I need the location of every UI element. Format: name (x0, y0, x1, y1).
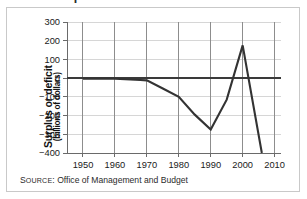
vertical-gridlines (83, 22, 275, 153)
figure-container: Federal Surplus or Deficit Surplus or de… (0, 0, 307, 199)
source-note: SOURCE: Office of Management and Budget (20, 175, 188, 185)
svg-text:300: 300 (44, 17, 60, 27)
chart-panel: Surplus or deficit (billions of dollars)… (6, 7, 300, 192)
svg-text:2010: 2010 (264, 160, 285, 170)
line-chart-svg: 3002001000−100−200−300−400 1950196019701… (7, 8, 301, 193)
svg-text:0: 0 (55, 74, 60, 84)
svg-text:1990: 1990 (200, 160, 221, 170)
svg-text:1970: 1970 (137, 160, 158, 170)
svg-text:200: 200 (44, 36, 60, 46)
svg-text:−200: −200 (39, 111, 60, 121)
svg-text:1960: 1960 (105, 160, 126, 170)
svg-text:1950: 1950 (73, 160, 94, 170)
source-text: Office of Management and Budget (57, 175, 188, 185)
svg-text:−400: −400 (39, 148, 60, 158)
axis-lines (67, 22, 281, 153)
horizontal-gridlines (67, 22, 281, 153)
y-axis-ticks: 3002001000−100−200−300−400 (39, 17, 67, 158)
source-prefix-rest: OURCE (26, 177, 53, 185)
svg-text:2000: 2000 (232, 160, 253, 170)
plot-area-wrapper: 3002001000−100−200−300−400 1950196019701… (7, 8, 301, 193)
data-series-group (83, 45, 262, 153)
svg-text:100: 100 (44, 55, 60, 65)
svg-text:1980: 1980 (168, 160, 189, 170)
chart-title-clipped: Federal Surplus or Deficit (6, 0, 256, 5)
svg-text:−300: −300 (39, 130, 60, 140)
svg-text:−100: −100 (39, 92, 60, 102)
x-axis-ticks: 1950196019701980199020002010 (73, 153, 285, 170)
